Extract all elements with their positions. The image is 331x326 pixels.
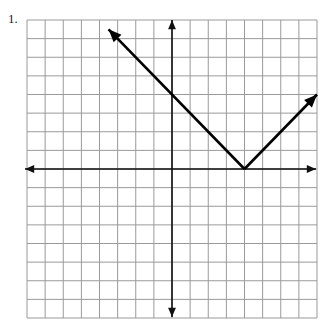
coordinate-graph xyxy=(0,0,331,326)
axes xyxy=(25,20,316,317)
absolute-value-curve xyxy=(109,29,317,169)
